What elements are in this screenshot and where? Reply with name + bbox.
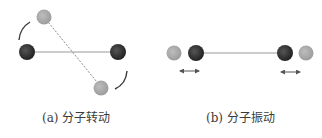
- atom-dark-right: [277, 45, 293, 61]
- panel-vibration: [167, 45, 314, 72]
- atom-light-bottom: [94, 81, 109, 96]
- caption-vibration: (b) 分子振动: [206, 108, 275, 125]
- panel-rotation: [19, 10, 127, 96]
- atom-light-top: [37, 10, 52, 25]
- rotation-arc-bottom-right: [115, 71, 127, 89]
- atom-dark-right: [110, 44, 126, 60]
- rotation-arc-top-left: [19, 22, 30, 40]
- atom-light-right: [299, 46, 314, 61]
- caption-rotation: (a) 分子转动: [42, 108, 110, 125]
- atom-light-left: [167, 46, 182, 61]
- atom-dark-left: [19, 44, 35, 60]
- atom-dark-left: [188, 45, 204, 61]
